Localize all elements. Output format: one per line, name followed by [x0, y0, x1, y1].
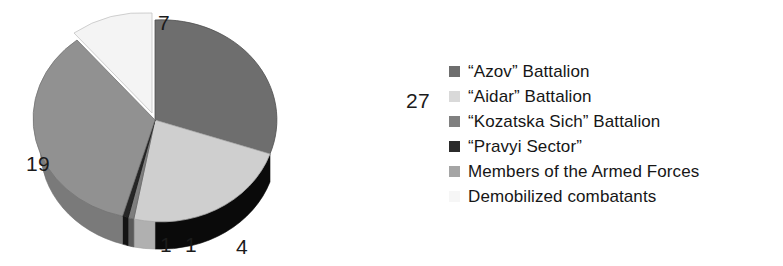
pie-plot-area: 7 27 19 1 1 4 [0, 0, 450, 266]
legend-item-aidar[interactable]: “Aidar” Battalion [449, 84, 779, 109]
legend-item-label: Demobilized combatants [468, 188, 656, 205]
pie-value-label-kozatska: 1 [160, 234, 172, 255]
pie-side-wall-kozatska [128, 218, 134, 247]
pie-chart-figure: 7 27 19 1 1 4 “Azov” Battalion “Aidar” B… [0, 0, 783, 266]
legend-swatch-icon [449, 166, 460, 177]
legend-item-label: “Aidar” Battalion [468, 88, 592, 105]
chart-legend: “Azov” Battalion “Aidar” Battalion “Koza… [449, 59, 779, 209]
pie-svg [0, 0, 450, 266]
legend-item-demobilized[interactable]: Demobilized combatants [449, 184, 779, 209]
legend-swatch-icon [449, 141, 460, 152]
pie-top-faces [33, 13, 277, 222]
pie-value-label-aidar: 4 [236, 236, 248, 257]
legend-item-azov[interactable]: “Azov” Battalion [449, 59, 779, 84]
pie-value-label-armed-forces: 19 [26, 153, 50, 174]
legend-item-label: “Azov” Battalion [468, 63, 590, 80]
legend-item-kozatska-sich[interactable]: “Kozatska Sich” Battalion [449, 109, 779, 134]
legend-swatch-icon [449, 91, 460, 102]
legend-item-armed-forces[interactable]: Members of the Armed Forces [449, 159, 779, 184]
pie-value-label-demobilized: 7 [158, 12, 170, 33]
pie-value-label-pravyi: 1 [185, 234, 197, 255]
pie-side-wall-pravyi [123, 216, 129, 246]
legend-item-label: “Pravyi Sector” [468, 138, 582, 155]
legend-swatch-icon [449, 116, 460, 127]
legend-item-label: Members of the Armed Forces [468, 163, 699, 180]
legend-swatch-icon [449, 66, 460, 77]
pie-side-wall-aidar [134, 219, 155, 249]
legend-swatch-icon [449, 191, 460, 202]
pie-value-label-azov: 27 [406, 90, 430, 111]
legend-item-pravyi-sector[interactable]: “Pravyi Sector” [449, 134, 779, 159]
legend-item-label: “Kozatska Sich” Battalion [468, 113, 660, 130]
